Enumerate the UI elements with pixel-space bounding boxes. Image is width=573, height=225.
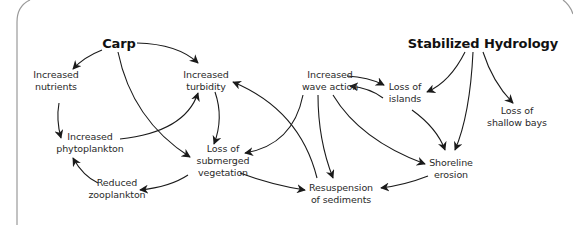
node-shoreline: Shoreline erosion [429,157,473,181]
arrow-hydrology-to-shoreline [455,52,473,150]
node-turbidity: Increased turbidity [183,69,228,93]
arrow-shoreline-to-sediments [381,176,428,188]
arrow-hydrology-to-islands [427,52,465,92]
arrow-vegetation-to-sediments [240,173,305,190]
node-islands: Loss of islands [389,81,421,105]
arrow-hydrology-to-bays [483,52,513,103]
node-hydrology: Stabilized Hydrology [408,36,558,51]
ecology-diagram: CarpIncreased nutrientsIncreased turbidi… [0,0,573,225]
arrow-turbidity-to-vegetation [214,92,219,144]
arrow-islands-to-shoreline [412,110,445,150]
node-bays: Loss of shallow bays [487,105,547,129]
node-nutrients: Increased nutrients [33,69,78,93]
node-phytoplankton: Increased phytoplankton [56,131,123,155]
node-zooplankton: Reduced zooplankton [88,177,145,201]
node-sediments: Resuspension of sediments [309,182,373,206]
node-carp: Carp [102,36,136,51]
arrow-wave-to-sediments [318,95,333,178]
arrow-vegetation-to-zooplankton [140,175,188,190]
arrow-carp-to-vegetation [118,52,190,157]
arrow-wave-to-shoreline [333,95,425,164]
node-wave: Increased wave action [302,69,358,93]
arrow-carp-to-turbidity [137,43,198,63]
node-vegetation: Loss of submerged vegetation [197,143,250,179]
arrow-carp-to-nutrients [73,50,102,69]
arrow-wave-to-vegetation [245,95,303,153]
